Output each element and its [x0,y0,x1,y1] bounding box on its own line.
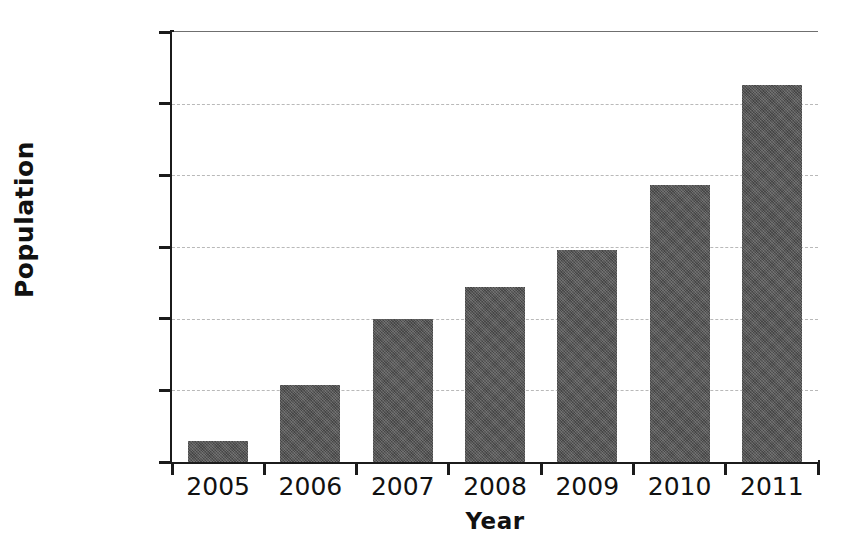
x-axis-tick-label: 2011 [740,472,804,501]
x-axis-tick-label: 2006 [279,472,343,501]
gridline [172,175,818,176]
bar-chart: Population Year 050 000100 000150 000200… [0,0,843,550]
gridline [172,247,818,248]
bar [188,441,248,462]
bar [742,85,802,462]
bar [557,250,617,462]
y-axis-title: Population [10,100,39,340]
bar [650,185,710,462]
x-axis-tick [817,462,820,475]
x-axis-tick [263,462,266,475]
y-axis-tick [159,102,172,105]
y-axis-tick [159,174,172,177]
y-axis-tick [159,389,172,392]
y-axis-tick [159,31,172,34]
x-axis-tick-label: 2008 [463,472,527,501]
x-axis-title: Year [172,508,818,534]
x-axis-tick [632,462,635,475]
y-axis-tick [159,246,172,249]
x-axis-tick-label: 2009 [555,472,619,501]
plot-area [172,32,818,462]
gridline [172,104,818,105]
y-axis-tick [159,317,172,320]
x-axis-tick [171,462,174,475]
x-axis-tick [724,462,727,475]
x-axis-tick-label: 2010 [648,472,712,501]
x-axis-tick [447,462,450,475]
bar [373,319,433,462]
x-axis-tick [540,462,543,475]
bar [280,385,340,462]
bar [465,287,525,462]
x-axis-tick [355,462,358,475]
x-axis-tick-label: 2005 [186,472,250,501]
x-axis-tick-label: 2007 [371,472,435,501]
